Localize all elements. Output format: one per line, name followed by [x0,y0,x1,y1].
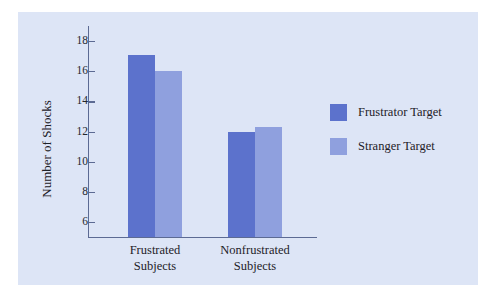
y-tick-label: 6 [54,216,88,228]
y-axis-title: Number of Shocks [39,74,55,224]
legend-swatch [330,104,347,121]
x-category-label-line: Nonfrustrated [190,243,320,259]
y-tick-label: 12 [54,126,88,138]
y-tick-mark [89,222,95,223]
chart-figure: Number of Shocks 181614121086 Frustrated… [18,12,478,285]
y-tick-label: 8 [54,186,88,198]
y-tick-label: 16 [54,65,88,77]
x-axis-line [88,237,317,238]
bar [155,71,182,237]
y-tick-mark [89,132,95,133]
y-tick-mark [89,101,95,102]
legend-label: Stranger Target [358,139,435,154]
y-tick-mark [89,41,95,42]
y-tick-label: 14 [54,96,88,108]
y-tick-label: 18 [54,35,88,47]
x-category-label: NonfrustratedSubjects [190,243,320,274]
legend-item: Frustrator Target [330,104,442,121]
legend-label: Frustrator Target [358,105,442,120]
x-category-label-line: Subjects [190,259,320,275]
bar [255,127,282,237]
legend-item: Stranger Target [330,138,442,155]
y-tick-label: 10 [54,156,88,168]
bar [228,132,255,238]
y-tick-mark [89,162,95,163]
legend-swatch [330,138,347,155]
chart-legend: Frustrator TargetStranger Target [330,104,442,172]
bar [128,55,155,237]
y-tick-mark [89,71,95,72]
y-tick-mark [89,192,95,193]
